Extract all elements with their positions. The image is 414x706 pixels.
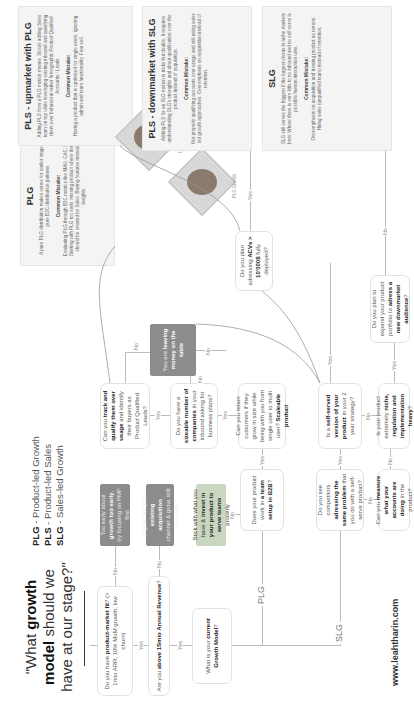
flowchart-canvas: "What growth model should we have at our… [0,0,414,706]
flow-connectors [0,0,414,706]
footer-url[interactable]: www.leahtharin.com [390,599,400,686]
